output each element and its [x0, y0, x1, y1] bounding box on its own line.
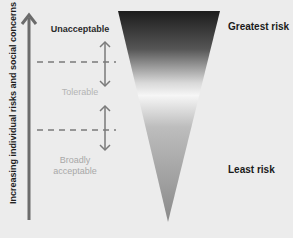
- zone-broadly-line1: Broadly: [45, 155, 105, 165]
- least-risk-label: Least risk: [228, 164, 275, 175]
- greatest-risk-label: Greatest risk: [228, 21, 289, 32]
- zone-broadly-line2: acceptable: [45, 166, 105, 176]
- alarp-diagram: Increasing individual risks and social c…: [0, 0, 293, 238]
- up-arrow-icon: [22, 15, 36, 220]
- axis-label: Increasing individual risks and social c…: [8, 2, 18, 204]
- diagram-graphics: [0, 0, 293, 238]
- zone-tolerable: Tolerable: [50, 87, 110, 97]
- risk-triangle: [118, 11, 220, 222]
- double-arrow-icon-upper: [100, 42, 110, 86]
- zone-unacceptable: Unacceptable: [50, 24, 110, 34]
- double-arrow-icon-lower: [100, 106, 110, 150]
